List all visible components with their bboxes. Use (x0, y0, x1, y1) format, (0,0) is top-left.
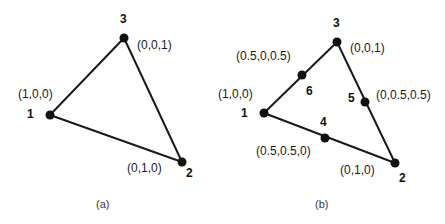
node-4 (321, 134, 330, 143)
panel-b: 1 (1,0,0) 2 (0,1,0) 3 (0,0,1) 4 (0.5,0.5… (222, 0, 445, 224)
node-1 (260, 109, 269, 118)
caption-b: (b) (315, 198, 328, 210)
node-2-coord-label: (0,1,0) (340, 164, 375, 176)
figure-root: 1 (1,0,0) 2 (0,1,0) 3 (0,0,1) (a) 1 (0, 0, 445, 224)
node-5-coord-label: (0,0.5,0.5) (376, 89, 431, 101)
node-4-number: 4 (320, 116, 327, 128)
triangle-diagram-b (0, 0, 445, 224)
node-6-coord-label: (0.5,0,0.5) (236, 50, 291, 62)
node-1-coord-label: (1,0,0) (218, 88, 253, 100)
node-2-number: 2 (399, 172, 406, 184)
node-5 (361, 98, 370, 107)
node-3-number: 3 (333, 17, 340, 29)
node-1-number: 1 (241, 107, 248, 119)
node-2 (391, 159, 400, 168)
node-3-coord-label: (0,0,1) (350, 42, 385, 54)
node-6-number: 6 (306, 85, 313, 97)
node-4-coord-label: (0.5,0.5,0) (256, 145, 311, 157)
node-3 (333, 38, 342, 47)
node-6 (298, 71, 307, 80)
node-5-number: 5 (348, 92, 355, 104)
